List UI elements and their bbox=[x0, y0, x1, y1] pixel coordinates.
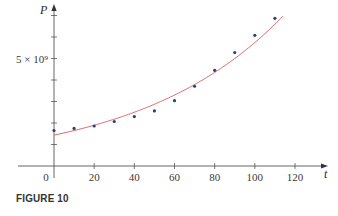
data-point bbox=[273, 17, 276, 20]
data-points bbox=[52, 17, 276, 132]
svg-text:40: 40 bbox=[129, 171, 141, 183]
data-point bbox=[253, 34, 256, 37]
svg-text:0: 0 bbox=[43, 171, 49, 183]
data-point bbox=[213, 69, 216, 72]
data-point bbox=[133, 115, 136, 118]
data-point bbox=[113, 120, 116, 123]
data-point bbox=[72, 127, 75, 130]
axes bbox=[18, 4, 328, 178]
svg-text:100: 100 bbox=[247, 171, 264, 183]
data-point bbox=[153, 109, 156, 112]
chart: 0204060801001205 × 10⁹ P t bbox=[0, 0, 338, 216]
svg-text:5 × 10⁹: 5 × 10⁹ bbox=[16, 53, 48, 65]
data-point bbox=[52, 129, 55, 132]
svg-text:120: 120 bbox=[287, 171, 304, 183]
data-point bbox=[233, 51, 236, 54]
data-point bbox=[173, 99, 176, 102]
figure-caption: FIGURE 10 bbox=[16, 192, 69, 204]
model-curve bbox=[54, 16, 283, 135]
svg-text:80: 80 bbox=[209, 171, 221, 183]
data-point bbox=[93, 124, 96, 127]
data-point bbox=[193, 85, 196, 88]
ticks bbox=[51, 16, 295, 170]
tick-labels: 0204060801001205 × 10⁹ bbox=[16, 53, 304, 184]
svg-text:60: 60 bbox=[169, 171, 181, 183]
y-axis-label: P bbox=[39, 3, 48, 17]
svg-text:20: 20 bbox=[89, 171, 101, 183]
x-axis-label: t bbox=[324, 167, 328, 181]
